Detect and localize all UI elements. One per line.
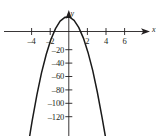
y-tick-label: –120 bbox=[33, 113, 64, 122]
x-tick-label: 6 bbox=[119, 37, 131, 46]
x-tick-label: 2 bbox=[81, 37, 93, 46]
parabola-plot bbox=[0, 0, 163, 136]
y-axis-label: y bbox=[71, 10, 75, 18]
x-tick-label: 4 bbox=[100, 37, 112, 46]
y-tick-label: –60 bbox=[37, 72, 64, 81]
y-tick-label: –80 bbox=[37, 86, 64, 95]
y-tick-label: –20 bbox=[37, 46, 64, 55]
graph-figure: –4 –2 2 4 6 –20 –40 –60 –80 –100 –120 x … bbox=[0, 0, 163, 136]
x-axis-label: x bbox=[152, 26, 156, 34]
x-tick-label: –4 bbox=[25, 37, 39, 46]
y-tick-label: –100 bbox=[33, 99, 64, 108]
y-tick-label: –40 bbox=[37, 59, 64, 68]
